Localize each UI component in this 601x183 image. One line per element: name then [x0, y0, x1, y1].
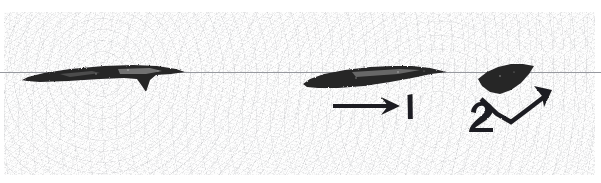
specimen-left-silhouette — [22, 65, 185, 92]
specimen-right-silhouette — [478, 64, 534, 94]
callout-number-2-glyph — [469, 102, 493, 132]
callout-number-2 — [469, 102, 493, 132]
figure-root: 1 2 — [0, 0, 601, 183]
callout-number-1-glyph — [408, 94, 413, 119]
callout-number-1 — [408, 94, 413, 119]
specimen-left — [22, 65, 185, 92]
arrow-1 — [333, 97, 400, 115]
specimen-right — [478, 64, 534, 94]
figure-artwork — [0, 0, 601, 183]
specimen-middle — [303, 66, 447, 88]
specimen-middle-silhouette — [303, 66, 447, 88]
